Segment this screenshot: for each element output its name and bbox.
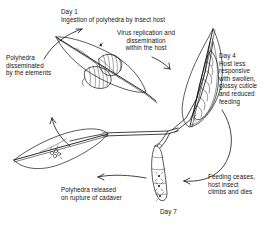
leaf-bottom-left [14, 129, 108, 169]
caption-day7: Day 7 [160, 208, 177, 216]
larva-swollen [194, 51, 219, 121]
caption-polyhedra-released: Polyhedra released on rupture of cadaver [61, 186, 122, 201]
caption-day4: Day 4 Host less responsive with swollen,… [219, 52, 257, 105]
caption-dissemination: Polyhedra disseminated by the elements [6, 54, 51, 77]
caption-day1: Day 1 Ingestion of polyhedra by insect h… [61, 8, 165, 23]
plant-stems [70, 42, 213, 148]
arrow-to-day4 [152, 57, 170, 69]
diagram-canvas: Day 1 Ingestion of polyhedra by insect h… [0, 0, 279, 225]
arrow-dissemination [50, 118, 70, 146]
polyhedra-released-specks [155, 172, 164, 201]
caption-virus-replication: Virus replication and dissemination with… [97, 29, 195, 52]
larva-cadaver [152, 144, 167, 201]
arrow-cadaver-to-leaf [98, 174, 146, 180]
caption-feeding-ceases: Feeding ceases, host insect climbs and d… [208, 173, 255, 196]
